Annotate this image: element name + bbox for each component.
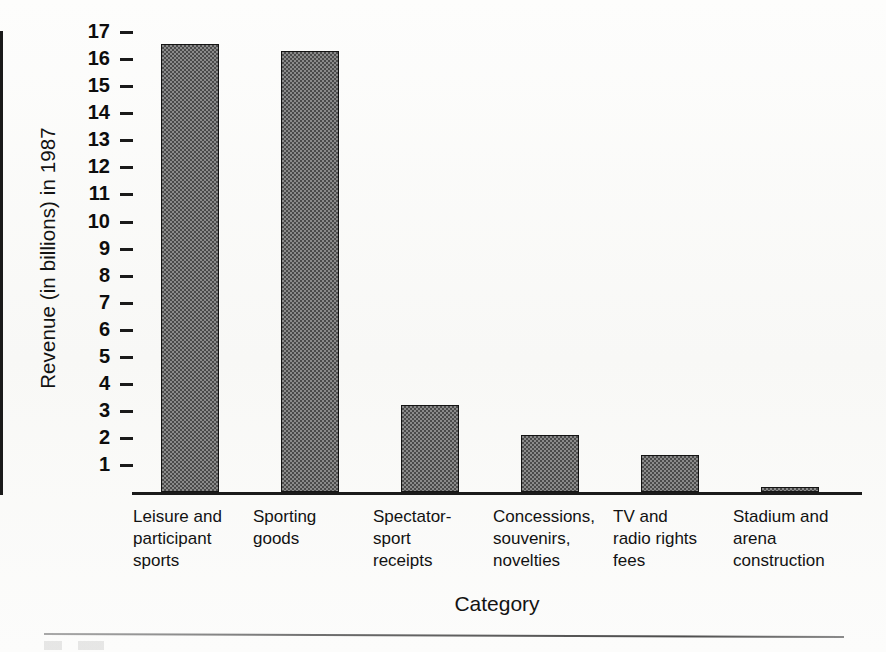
category-label-line: Concessions, bbox=[493, 506, 605, 528]
y-axis-tick-label: 16 bbox=[74, 48, 110, 68]
x-axis-category-label-1: Leisure andparticipantsports bbox=[133, 506, 245, 571]
y-axis-tick-label: 14 bbox=[74, 102, 110, 122]
x-axis-category-label-3: Spectator-sportreceipts bbox=[373, 506, 485, 571]
y-axis-tick-label: 3 bbox=[74, 400, 110, 420]
y-axis-tick-mark bbox=[120, 112, 133, 115]
bar-5 bbox=[641, 455, 699, 492]
category-label-line: participant bbox=[133, 528, 245, 550]
category-label-line: sport bbox=[373, 528, 485, 550]
x-axis-category-label-5: TV andradio rightsfees bbox=[613, 506, 725, 571]
category-label-line: construction bbox=[733, 550, 845, 572]
y-axis-tick-mark bbox=[120, 464, 133, 467]
y-axis-tick-mark bbox=[120, 329, 133, 332]
category-label-line: fees bbox=[613, 550, 725, 572]
category-label-line: receipts bbox=[373, 550, 485, 572]
y-axis-tick-mark bbox=[120, 356, 133, 359]
bar-4 bbox=[521, 435, 579, 492]
y-axis-tick-label: 12 bbox=[74, 156, 110, 176]
y-axis-tick-mark bbox=[120, 31, 133, 34]
y-axis-tick-label: 15 bbox=[74, 75, 110, 95]
y-axis-tick-label: 13 bbox=[74, 129, 110, 149]
category-label-line: Stadium and bbox=[733, 506, 845, 528]
category-label-line: sports bbox=[133, 550, 245, 572]
y-axis-tick-label: 4 bbox=[74, 373, 110, 393]
caption-ghost-text bbox=[44, 641, 304, 650]
category-label-line: Spectator- bbox=[373, 506, 485, 528]
x-axis-category-label-6: Stadium andarenaconstruction bbox=[733, 506, 845, 571]
category-label-line: TV and bbox=[613, 506, 725, 528]
category-label-line: arena bbox=[733, 528, 845, 550]
y-axis-tick-mark bbox=[120, 437, 133, 440]
y-axis-tick-mark bbox=[120, 221, 133, 224]
y-axis-tick-label: 5 bbox=[74, 346, 110, 366]
x-axis-category-label-2: Sportinggoods bbox=[253, 506, 365, 550]
y-axis-tick-label: 1 bbox=[74, 454, 110, 474]
bar-chart-figure: Revenue (in billions) in 1987 1716151413… bbox=[0, 0, 886, 652]
y-axis-tick-mark bbox=[120, 166, 133, 169]
category-label-line: souvenirs, bbox=[493, 528, 605, 550]
y-axis-tick-mark bbox=[120, 248, 133, 251]
y-axis-tick-label: 7 bbox=[74, 292, 110, 312]
category-label-line: radio rights bbox=[613, 528, 725, 550]
y-axis-tick-mark bbox=[120, 193, 133, 196]
y-axis-tick-label: 11 bbox=[74, 183, 110, 203]
bar-6 bbox=[761, 487, 819, 492]
category-label-line: goods bbox=[253, 528, 365, 550]
y-axis-tick-label: 2 bbox=[74, 427, 110, 447]
y-axis-title: Revenue (in billions) in 1987 bbox=[36, 28, 60, 488]
y-axis-tick-label: 10 bbox=[74, 211, 110, 231]
y-axis-tick-label: 6 bbox=[74, 319, 110, 339]
caption-divider-rule bbox=[44, 633, 844, 638]
x-axis-title: Category bbox=[132, 592, 862, 616]
x-axis-category-label-4: Concessions,souvenirs,novelties bbox=[493, 506, 605, 571]
category-label-line: Leisure and bbox=[133, 506, 245, 528]
y-axis-tick-mark bbox=[120, 85, 133, 88]
y-axis-tick-mark bbox=[120, 302, 133, 305]
category-label-line: novelties bbox=[493, 550, 605, 572]
category-label-line: Sporting bbox=[253, 506, 365, 528]
y-axis-tick-label: 8 bbox=[74, 265, 110, 285]
bar-2 bbox=[281, 51, 339, 492]
y-axis-tick-label: 9 bbox=[74, 238, 110, 258]
y-axis-tick-mark bbox=[120, 410, 133, 413]
bar-1 bbox=[161, 44, 219, 492]
y-axis-tick-label: 17 bbox=[74, 21, 110, 41]
y-axis-tick-mark bbox=[120, 383, 133, 386]
bar-3 bbox=[401, 405, 459, 492]
y-axis-tick-mark bbox=[120, 58, 133, 61]
y-axis-tick-mark bbox=[120, 275, 133, 278]
y-axis-spine bbox=[0, 31, 3, 495]
x-axis-spine bbox=[132, 492, 862, 495]
y-axis-tick-mark bbox=[120, 139, 133, 142]
